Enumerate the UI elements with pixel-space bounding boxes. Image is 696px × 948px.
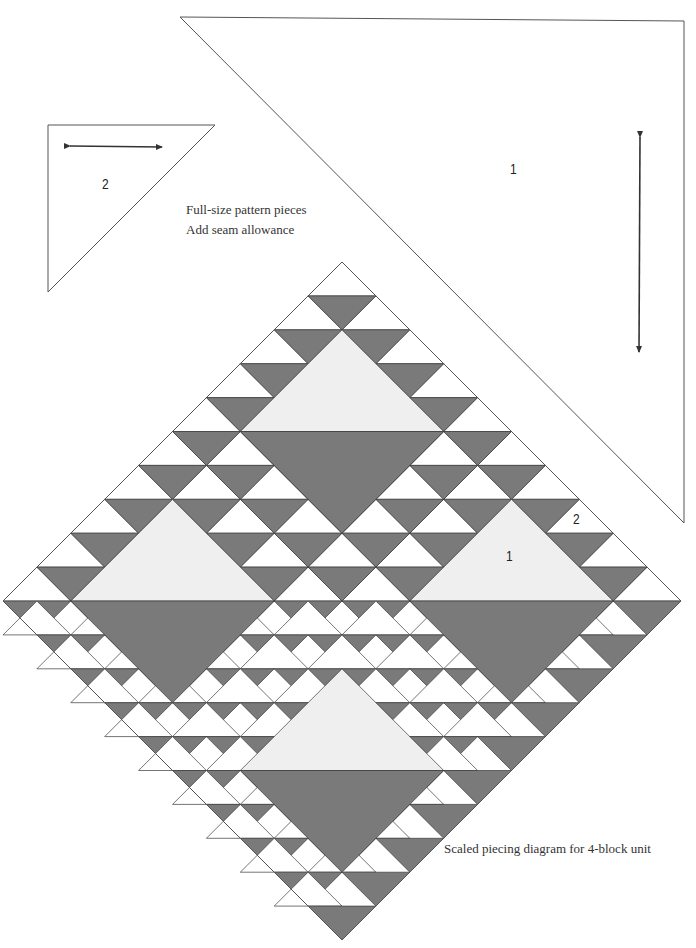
small-triangle-dark (478, 737, 546, 771)
diagram-label-2: 2 (573, 510, 580, 527)
small-triangle-dark (444, 771, 512, 805)
pattern-sheet (0, 0, 696, 948)
caption-full-size: Full-size pattern pieces (186, 200, 307, 220)
diagram-caption: Scaled piecing diagram for 4-block unit (444, 839, 651, 859)
small-triangle-light (308, 262, 376, 296)
small-triangle-dark (308, 906, 376, 940)
small-triangle-dark (342, 872, 410, 906)
small-triangle-dark (512, 703, 580, 737)
diagram-label-1: 1 (506, 547, 513, 564)
small-triangle-dark (613, 601, 681, 635)
piece-1-label: 1 (510, 160, 517, 177)
small-triangle-dark (579, 635, 647, 669)
small-triangle-dark (545, 669, 613, 703)
piece-2-label: 2 (102, 175, 109, 192)
grain-arrow-icon (639, 137, 640, 352)
pattern-caption: Full-size pattern pieces Add seam allowa… (186, 200, 307, 240)
small-triangle-dark (410, 804, 478, 838)
small-triangle-dark (376, 838, 444, 872)
grain-arrow-icon (70, 146, 162, 147)
caption-seam-allowance: Add seam allowance (186, 220, 307, 240)
